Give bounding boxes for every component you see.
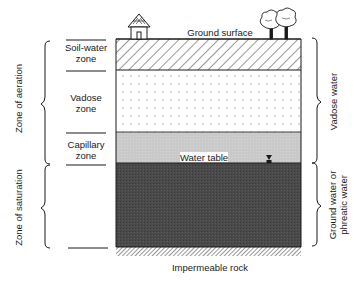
diagram-canvas (0, 0, 362, 281)
impermeable-rock-label: Impermeable rock (150, 262, 270, 273)
ground-surface-label: Ground surface (170, 27, 270, 38)
layer-vadose (116, 70, 301, 132)
layer-impermeable-rock (116, 247, 301, 256)
capillary-zone-label: Capillary zone (60, 139, 112, 161)
zone-of-saturation-label: Zone of saturation (13, 153, 24, 263)
layer-soil-water (116, 39, 301, 70)
vadose-zone-label-line2: zone (60, 103, 112, 114)
house-icon (128, 14, 150, 39)
brace-zone-of-aeration (41, 41, 50, 164)
brace-ground-water (312, 163, 321, 246)
vadose-water-label: Vadose water (328, 62, 339, 142)
zone-of-aeration-label: Zone of aeration (13, 49, 24, 149)
ground-water-label: Ground water or phreatic water (327, 160, 349, 250)
water-table-label: Water table (178, 152, 230, 163)
capillary-zone-label-line2: zone (60, 150, 112, 161)
brace-vadose-water (312, 38, 321, 163)
layer-saturated (116, 163, 301, 247)
vadose-zone-label-line1: Vadose (60, 92, 112, 103)
soil-water-zone-label-line1: Soil-water (60, 42, 112, 53)
soil-water-zone-label-line2: zone (60, 53, 112, 64)
vadose-zone-label: Vadose zone (60, 92, 112, 114)
ground-water-label-line2: phreatic water (338, 160, 349, 250)
brace-zone-of-saturation (41, 165, 50, 248)
capillary-zone-label-line1: Capillary (60, 139, 112, 150)
soil-water-zone-label: Soil-water zone (60, 42, 112, 64)
ground-water-label-line1: Ground water or (327, 160, 338, 250)
